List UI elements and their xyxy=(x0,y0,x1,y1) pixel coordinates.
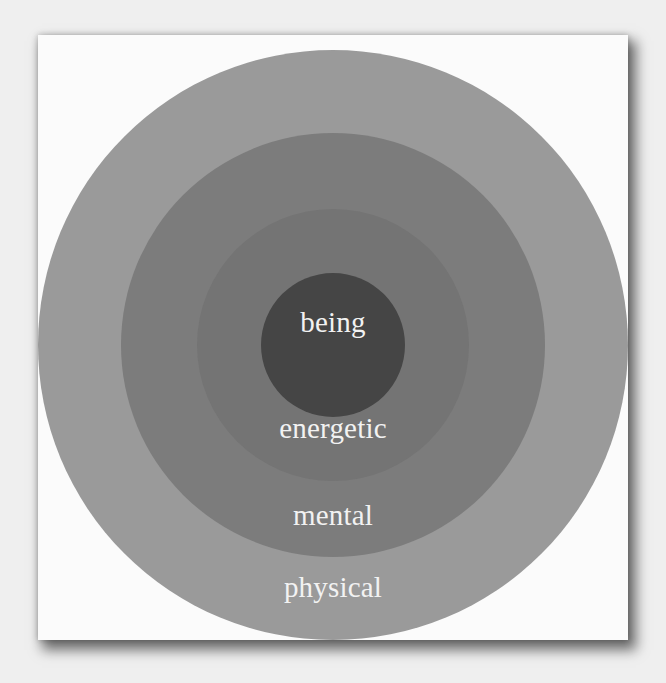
ring-being xyxy=(261,273,405,417)
label-energetic: energetic xyxy=(0,412,666,445)
label-mental: mental xyxy=(0,499,666,532)
label-being: being xyxy=(0,306,666,339)
page: being energetic mental physical xyxy=(0,0,666,683)
label-physical: physical xyxy=(0,571,666,604)
